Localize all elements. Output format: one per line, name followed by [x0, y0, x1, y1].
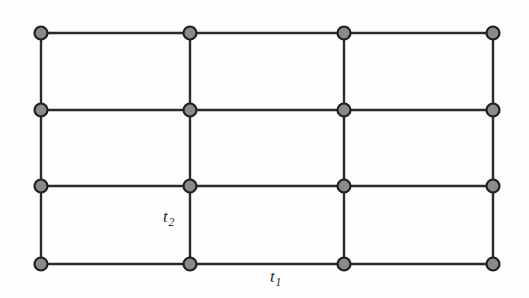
lattice-graphic	[0, 0, 529, 298]
lattice-site-node	[184, 180, 197, 193]
hopping-label-t1: t1	[270, 268, 281, 285]
lattice-edges-group	[41, 33, 493, 264]
lattice-site-node	[35, 27, 48, 40]
lattice-site-node	[184, 258, 197, 271]
lattice-site-node	[35, 258, 48, 271]
lattice-site-node	[184, 104, 197, 117]
lattice-figure: t2 t1	[0, 0, 529, 298]
lattice-site-node	[184, 27, 197, 40]
lattice-site-node	[35, 104, 48, 117]
lattice-site-node	[487, 258, 500, 271]
lattice-site-node	[487, 180, 500, 193]
lattice-nodes-group	[35, 27, 500, 271]
lattice-site-node	[338, 104, 351, 117]
hopping-label-t1-subscript: 1	[275, 276, 281, 289]
lattice-site-node	[35, 180, 48, 193]
lattice-site-node	[338, 180, 351, 193]
lattice-site-node	[487, 104, 500, 117]
hopping-label-t2: t2	[163, 208, 174, 225]
lattice-site-node	[338, 27, 351, 40]
lattice-site-node	[487, 27, 500, 40]
lattice-site-node	[338, 258, 351, 271]
hopping-label-t2-subscript: 2	[168, 216, 174, 229]
